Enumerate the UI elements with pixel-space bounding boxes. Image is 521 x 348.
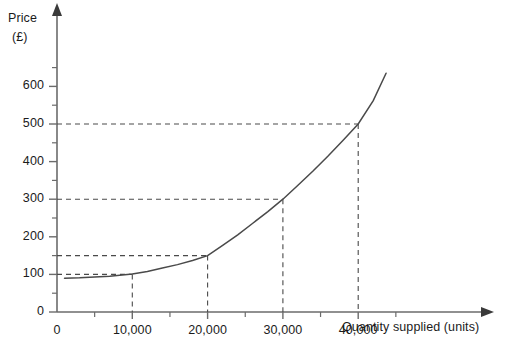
x-ticks-group xyxy=(95,312,396,319)
y-tick-label: 200 xyxy=(0,229,44,243)
supply-curve-chart: Price (£) Quantity supplied (units) 0100… xyxy=(0,0,521,348)
guide-lines-group xyxy=(57,124,358,312)
supply-curve-path xyxy=(65,73,387,278)
supply-curve-group xyxy=(65,73,387,278)
y-axis-unit-label: (£) xyxy=(12,30,28,44)
y-axis-arrow-icon xyxy=(52,3,62,16)
y-tick-label: 100 xyxy=(0,266,44,280)
y-tick-label: 0 xyxy=(0,304,44,318)
axes-group xyxy=(52,3,494,317)
y-axis-title: Price xyxy=(8,11,37,25)
y-tick-label: 500 xyxy=(0,116,44,130)
y-tick-label: 400 xyxy=(0,154,44,168)
y-ticks-group xyxy=(49,68,57,312)
x-tick-label: 40,000 xyxy=(313,323,403,337)
y-tick-label: 600 xyxy=(0,78,44,92)
chart-canvas xyxy=(0,0,521,348)
y-tick-label: 300 xyxy=(0,191,44,205)
x-axis-arrow-icon xyxy=(481,307,494,317)
